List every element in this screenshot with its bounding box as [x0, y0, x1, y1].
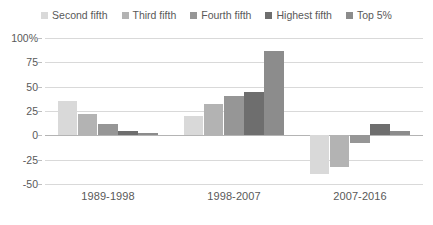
bar	[330, 135, 350, 167]
legend-label: Top 5%	[357, 10, 392, 21]
y-axis-tick-label: 75	[26, 57, 38, 68]
chart-legend: Second fifthThird fifthFourth fifthHighe…	[0, 6, 433, 24]
x-axis-tick-label: 2007-2016	[333, 190, 387, 203]
y-axis: 100%7550250-25-50	[0, 38, 42, 184]
legend-swatch-icon	[346, 12, 353, 19]
gridline	[45, 87, 423, 88]
bar	[58, 101, 78, 135]
legend-label: Third fifth	[133, 10, 177, 21]
y-axis-tick-mark	[38, 160, 42, 161]
bar	[244, 92, 264, 136]
gridline	[45, 184, 423, 185]
gridline	[45, 62, 423, 63]
y-axis-tick-label: 25	[26, 106, 38, 117]
y-axis-tick-label: 50	[26, 81, 38, 92]
legend-item-second-fifth[interactable]: Second fifth	[41, 10, 107, 21]
bar-chart: Second fifthThird fifthFourth fifthHighe…	[0, 0, 433, 225]
legend-label: Highest fifth	[276, 10, 331, 21]
legend-item-top-5[interactable]: Top 5%	[346, 10, 392, 21]
gridline	[45, 38, 423, 39]
legend-item-third-fifth[interactable]: Third fifth	[122, 10, 177, 21]
y-axis-tick-mark	[38, 135, 42, 136]
legend-item-fourth-fifth[interactable]: Fourth fifth	[190, 10, 251, 21]
legend-swatch-icon	[265, 12, 272, 19]
bar	[390, 131, 410, 135]
bar	[310, 135, 330, 174]
bar	[370, 124, 390, 136]
plot-area	[45, 38, 423, 184]
bar	[264, 51, 284, 136]
bar	[224, 96, 244, 135]
y-axis-tick-mark	[38, 184, 42, 185]
legend-label: Second fifth	[52, 10, 107, 21]
bar	[184, 116, 204, 135]
bar	[350, 135, 370, 143]
bar	[138, 133, 158, 135]
bar	[118, 131, 138, 135]
y-axis-tick-mark	[38, 38, 42, 39]
bar	[78, 114, 98, 135]
legend-item-highest-fifth[interactable]: Highest fifth	[265, 10, 331, 21]
y-axis-tick-label: 100%	[11, 33, 38, 44]
x-axis: 1989-19981998-20072007-2016	[45, 190, 423, 212]
legend-label: Fourth fifth	[201, 10, 251, 21]
x-axis-tick-label: 1989-1998	[81, 190, 135, 203]
legend-swatch-icon	[122, 12, 129, 19]
bar	[204, 104, 224, 135]
y-axis-tick-mark	[38, 87, 42, 88]
bar	[98, 124, 118, 136]
gridline	[45, 160, 423, 161]
y-axis-tick-label: -25	[23, 154, 38, 165]
y-axis-tick-mark	[38, 62, 42, 63]
legend-swatch-icon	[190, 12, 197, 19]
legend-swatch-icon	[41, 12, 48, 19]
y-axis-tick-label: -50	[23, 179, 38, 190]
y-axis-tick-mark	[38, 111, 42, 112]
x-axis-tick-label: 1998-2007	[207, 190, 261, 203]
